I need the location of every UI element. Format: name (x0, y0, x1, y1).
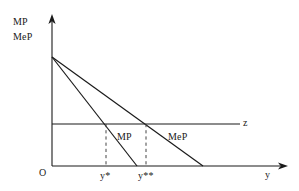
x-axis (52, 162, 288, 169)
x-axis-label: y (265, 169, 270, 180)
y-star-star-tick-label: y** (138, 170, 154, 181)
plot-canvas (0, 0, 299, 191)
mp-curve-label: MP (117, 131, 132, 142)
mp-curve (52, 57, 137, 166)
z-line-label: z (243, 117, 248, 128)
y-axis-label-mep: MeP (13, 31, 33, 42)
y-axis-label-mp: MP (13, 16, 28, 27)
y-star-tick-label: y* (100, 170, 110, 181)
origin-label: O (39, 167, 46, 178)
mep-curve (52, 57, 203, 166)
economics-diagram: MP MeP O y z MP MeP y* y** (0, 0, 299, 191)
y-axis (48, 14, 55, 166)
mep-curve-label: MeP (168, 131, 188, 142)
